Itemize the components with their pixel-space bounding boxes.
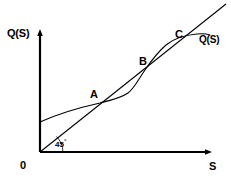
y-axis-arrowhead [37,29,43,36]
figure-container: Q(S) S 0 Q(S) A B C 45° [0,0,231,181]
curve-label: Q(S) [199,35,219,45]
degree-symbol-icon: ° [64,138,66,144]
x-axis [40,149,212,155]
y-axis [37,29,43,152]
y-axis-label: Q(S) [7,28,29,39]
angle-label: 45° [55,138,66,149]
q-of-s-curve [40,34,210,122]
point-label-b: B [139,56,147,67]
x-axis-label: S [209,161,216,172]
forty-five-degree-line [40,4,226,152]
angle-label-value: 45 [55,140,64,149]
origin-label: 0 [20,160,26,171]
diagram-canvas [0,0,231,181]
point-label-c: C [175,29,183,40]
point-label-a: A [90,89,98,100]
x-axis-arrowhead [205,149,212,155]
